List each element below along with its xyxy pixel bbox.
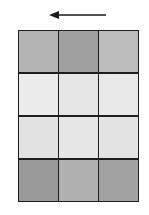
grid-cell-r1-c2	[59, 31, 98, 72]
grid-cell-r2-c1	[19, 74, 58, 115]
grid-cell-r3-c2	[59, 117, 98, 158]
grid-cell-r4-c2	[59, 160, 98, 201]
grid-cell-r2-c2	[59, 74, 98, 115]
grid-cell-r3-c1	[19, 117, 58, 158]
grid-cell-r4-c3	[99, 160, 138, 201]
left-arrow-icon	[49, 10, 107, 20]
grid-cell-r1-c1	[19, 31, 58, 72]
shaded-grid	[18, 30, 139, 202]
grid-cell-r1-c3	[99, 31, 138, 72]
grid-cell-r2-c3	[99, 74, 138, 115]
grid-cell-r3-c3	[99, 117, 138, 158]
grid-cell-r4-c1	[19, 160, 58, 201]
